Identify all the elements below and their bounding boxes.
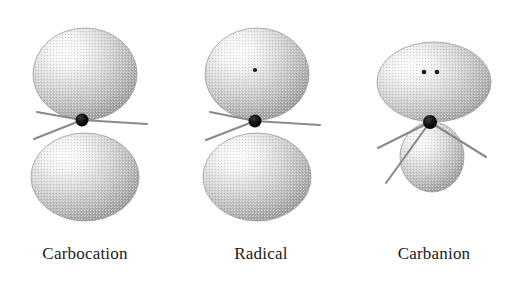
- lone-pair-electron-left: [422, 70, 427, 75]
- carbocation-nucleus: [76, 114, 89, 127]
- radical-unpaired-electron: [253, 68, 257, 72]
- carbanion-upper-lobe-dome: [377, 42, 491, 122]
- figure-canvas: Carbocation Radical: [0, 0, 520, 288]
- carbanion-label: Carbanion: [398, 244, 471, 263]
- orbital-diagram: Carbocation Radical: [0, 0, 520, 288]
- radical-upper-lobe: [205, 28, 309, 120]
- carbocation-label: Carbocation: [42, 244, 128, 263]
- carbocation-upper-lobe: [33, 28, 137, 120]
- carbanion-nucleus: [423, 115, 437, 129]
- lone-pair-electron-right: [435, 70, 440, 75]
- carbocation-lower-lobe: [31, 133, 139, 221]
- radical-label: Radical: [234, 244, 287, 263]
- radical-lower-lobe: [203, 133, 311, 221]
- radical-nucleus: [249, 115, 262, 128]
